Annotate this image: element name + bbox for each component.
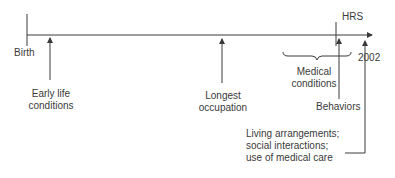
living-arrangements-line2: social interactions; [246,140,339,152]
early-life-line2: conditions [26,100,76,112]
longest-occupation-line2: occupation [196,102,250,114]
year-2002-label: 2002 [358,52,380,64]
longest-occupation-label: Longest occupation [196,90,250,114]
early-life-label: Early life conditions [26,88,76,112]
living-arrangements-line3: use of medical care [246,152,339,164]
medical-conditions-brace [283,52,351,60]
hrs-label: HRS [342,11,363,23]
living-arrangements-label: Living arrangements; social interactions… [246,128,339,164]
medical-conditions-line1: Medical [288,66,340,78]
longest-occupation-line1: Longest [196,90,250,102]
birth-label: Birth [14,47,35,59]
medical-conditions-line2: conditions [288,78,340,90]
behaviors-label: Behaviors [316,101,360,113]
living-arrangements-line1: Living arrangements; [246,128,339,140]
medical-conditions-label: Medical conditions [288,66,340,90]
early-life-line1: Early life [26,88,76,100]
